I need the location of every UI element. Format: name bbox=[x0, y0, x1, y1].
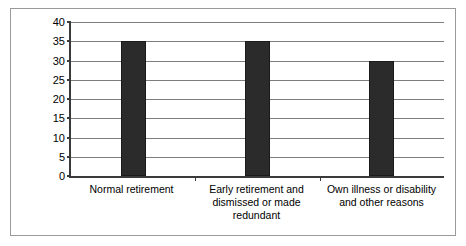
gridline bbox=[71, 22, 444, 23]
x-axis-category-label: Early retirement and dismissed or made r… bbox=[194, 183, 319, 222]
y-axis-tick-label: 10 bbox=[53, 132, 65, 143]
y-axis-tick-label: 25 bbox=[53, 74, 65, 85]
x-axis-labels: Normal retirementEarly retirement and di… bbox=[69, 183, 444, 222]
y-axis-tick-mark bbox=[67, 79, 71, 81]
bar bbox=[369, 61, 394, 177]
y-axis-tick-mark bbox=[67, 117, 71, 119]
y-axis-tick-mark bbox=[67, 156, 71, 158]
y-axis-tick-mark bbox=[67, 60, 71, 62]
x-axis-category-label: Own illness or disability and other reas… bbox=[319, 183, 444, 222]
y-axis-tick-mark bbox=[67, 137, 71, 139]
y-axis-tick-mark bbox=[67, 40, 71, 42]
x-axis-tick-mark bbox=[195, 176, 196, 181]
plot-area: 0510152025303540 bbox=[69, 22, 444, 178]
y-axis-tick-label: 15 bbox=[53, 113, 65, 124]
x-axis-tick-mark bbox=[320, 176, 321, 181]
bar bbox=[121, 41, 146, 176]
y-axis-tick-label: 5 bbox=[59, 151, 65, 162]
y-axis-tick-label: 40 bbox=[53, 17, 65, 28]
y-axis-tick-mark bbox=[67, 175, 71, 177]
y-axis-tick-mark bbox=[67, 21, 71, 23]
y-axis-tick-label: 0 bbox=[59, 171, 65, 182]
y-axis-tick-label: 30 bbox=[53, 55, 65, 66]
chart-figure: 0510152025303540 Normal retirementEarly … bbox=[10, 8, 456, 236]
y-axis-tick-label: 35 bbox=[53, 36, 65, 47]
y-axis-tick-mark bbox=[67, 98, 71, 100]
y-axis-tick-label: 20 bbox=[53, 94, 65, 105]
bar bbox=[245, 41, 270, 176]
x-axis-category-label: Normal retirement bbox=[69, 183, 194, 222]
